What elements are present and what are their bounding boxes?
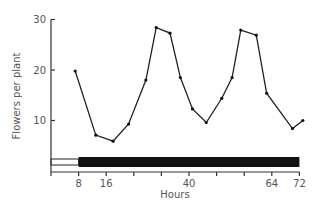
data-point bbox=[231, 76, 234, 79]
data-point bbox=[155, 26, 158, 29]
y-axis-title: Flowers per plant bbox=[11, 53, 22, 140]
data-point bbox=[191, 107, 194, 110]
data-point bbox=[168, 32, 171, 35]
data-point bbox=[255, 34, 258, 37]
data-point bbox=[144, 79, 147, 82]
y-tick-label: 20 bbox=[33, 65, 46, 76]
data-point bbox=[94, 134, 97, 137]
data-point bbox=[265, 92, 268, 95]
x-tick-label: 16 bbox=[100, 178, 113, 189]
flowers-chart: 102030816406472HoursFlowers per plant bbox=[0, 0, 322, 207]
data-point bbox=[205, 121, 208, 124]
x-tick-label: 64 bbox=[265, 178, 278, 189]
data-point bbox=[179, 76, 182, 79]
axes bbox=[51, 20, 299, 177]
x-tick-label: 40 bbox=[183, 178, 196, 189]
y-tick-label: 10 bbox=[33, 115, 46, 126]
data-point bbox=[291, 127, 294, 130]
data-point bbox=[239, 29, 242, 32]
data-point bbox=[220, 97, 223, 100]
light-dark-bar bbox=[51, 157, 299, 167]
x-tick-label: 72 bbox=[293, 178, 306, 189]
x-axis-title: Hours bbox=[160, 189, 189, 200]
series-line bbox=[75, 28, 303, 142]
light-period bbox=[51, 159, 79, 165]
y-tick-label: 30 bbox=[33, 14, 46, 25]
data-series bbox=[74, 26, 305, 143]
data-point bbox=[301, 119, 304, 122]
dark-period bbox=[79, 157, 300, 167]
chart-canvas: 102030816406472HoursFlowers per plant bbox=[0, 0, 322, 207]
data-point bbox=[112, 140, 115, 143]
x-tick-label: 8 bbox=[75, 178, 81, 189]
data-point bbox=[127, 122, 130, 125]
data-point bbox=[74, 69, 77, 72]
